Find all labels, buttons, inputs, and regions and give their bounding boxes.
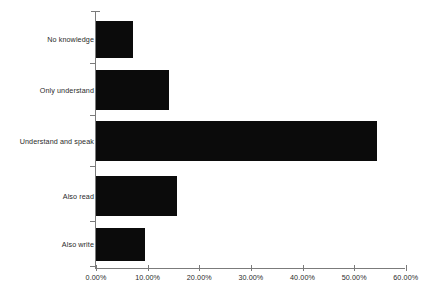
y-axis-top-cap [91, 11, 100, 12]
x-axis-tick [199, 265, 200, 271]
x-axis-tick [303, 265, 304, 271]
bar [96, 121, 377, 161]
category-label: Understand and speak [20, 137, 94, 146]
y-axis-tick [90, 221, 95, 222]
plot-area: No knowledgeOnly understandUnderstand an… [0, 0, 425, 297]
bar [96, 70, 169, 110]
x-axis-tick [354, 265, 355, 271]
category-label: Also read [63, 192, 94, 201]
bar [96, 21, 133, 58]
y-axis-tick [90, 115, 95, 116]
category-label: No knowledge [47, 35, 94, 44]
x-axis-tick [251, 265, 252, 271]
x-axis-tick [406, 265, 407, 271]
bar [96, 176, 177, 216]
bar-chart: No knowledgeOnly understandUnderstand an… [0, 0, 425, 297]
bar [96, 228, 145, 261]
category-label: Only understand [40, 86, 94, 95]
x-axis-tick [96, 265, 97, 271]
y-axis-tick [90, 266, 95, 267]
x-axis-tick-label: 60.00% [376, 273, 425, 282]
x-axis-tick [148, 265, 149, 271]
category-label: Also write [62, 240, 94, 249]
y-axis-tick [90, 166, 95, 167]
y-axis-tick [90, 63, 95, 64]
